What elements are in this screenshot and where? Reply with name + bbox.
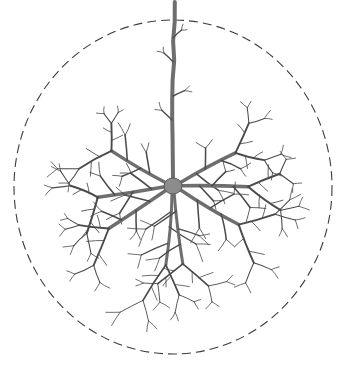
dendrite-up-right-d1 [180, 153, 235, 183]
basal-dendrite-down-inner-left-tw3-d3 [141, 243, 167, 255]
dendrite-down-right-a-tw1-d4 [251, 221, 260, 231]
dendrite-left-a-b-a-d4 [70, 246, 73, 255]
dendrite-down-right-b-a-d3 [254, 263, 272, 270]
dendrite-down-left-tw2-b-d4 [130, 231, 136, 239]
dendrite-right-b-b-b-d4 [279, 229, 282, 236]
basal-dendrite-down-inner-left-tw2-b-d4 [196, 244, 203, 262]
basal-dendrite-down-inner-right-tw2-d3 [179, 229, 200, 236]
dendrite-up-right-b-tw2-d4 [254, 152, 263, 158]
basal-dendrite-down-inner-left-b-tw1-d4 [142, 275, 159, 276]
dendrite-right-a-tw1-d4 [259, 183, 268, 192]
dendrite-down-right-a-b-d3 [275, 214, 295, 220]
dendrite-up-left-a-a-a-d4 [68, 183, 69, 192]
basal-dendrite-down-inner-right-a-tw2-d4 [199, 273, 213, 278]
dendrite-down-left-b-tw1-d4 [97, 215, 100, 227]
dendrite-right-a-b-a-d4 [293, 183, 301, 184]
dendrite-down-left-a-tw2-d4 [99, 254, 107, 266]
dendrite-up-left-tw2-a-d4 [119, 176, 122, 186]
dendrite-down-left-b-d2 [79, 225, 109, 228]
basal-dendrite-down-inner-left-tw3-b-d4 [128, 254, 141, 255]
apical-twig-1-a-d4 [157, 51, 164, 53]
dendrite-down-left-a-b-a-d4 [70, 274, 75, 281]
dendrite-down-left-a-a-a-d4 [100, 283, 110, 289]
dendrite-down-right-b-b-d3 [246, 263, 254, 283]
apical-twig-2-b-d4 [185, 91, 192, 92]
basal-dendrite-down-inner-right-tw3-d3 [160, 244, 181, 258]
dendrite-down-left-b-a-b-d4 [59, 224, 65, 229]
dendrite-right-b-tw2-d4 [271, 200, 283, 203]
dendrite-up-left-tw3-a-d4 [118, 123, 125, 135]
dendrite-left-tw1-b-d4 [127, 164, 132, 174]
dendrite-down-left-b-a-a-d4 [60, 229, 65, 236]
basal-dendrite-down-inner-right-a-a-d3 [208, 282, 226, 286]
dendrite-up-right-tw2-b-d4 [206, 140, 213, 149]
basal-dendrite-down-inner-left-b-tw2-d4 [152, 287, 158, 300]
dendrite-up-right-tw3-a-d4 [241, 163, 251, 169]
basal-dendrite-down-inner-right-b-a-a-d4 [160, 302, 170, 308]
dendrite-up-left-tw3-b-d4 [125, 124, 130, 135]
soma-layer [164, 178, 182, 194]
dendrite-up-left-b-b-b-d4 [118, 110, 123, 113]
dendrite-up-right-tw3-b-d4 [241, 169, 246, 177]
dendrite-down-left-b-b-a-d4 [61, 218, 68, 220]
dendrite-left-tw3-d3 [100, 176, 114, 195]
basal-dendrite-down-inner-left-a-a-d3 [179, 295, 194, 302]
dendritic-arbor-layer [44, 2, 309, 332]
basal-dendrite-down-inner-right-b-a-b-d4 [153, 302, 160, 310]
dendrite-up-right-a-a-d3 [247, 108, 249, 124]
dendrite-down-right-b-b-b-d4 [234, 283, 245, 287]
dendrite-right-a-b-d3 [280, 174, 294, 184]
dendrite-up-right-a-b-a-d4 [264, 111, 270, 119]
dendrite-down-left-a-d2 [94, 229, 109, 266]
dendrite-down-right-b-a-a-d4 [271, 267, 279, 270]
basal-dendrite-down-inner-right-a-d2 [183, 264, 209, 286]
dendrite-up-right-b-d2 [236, 153, 265, 160]
dendrite-up-left-b-b-a-d4 [118, 106, 119, 112]
soma-cell-body [164, 178, 182, 194]
dendrite-left-a-a-b-d4 [87, 254, 91, 262]
dendrite-right-tw3-a-d4 [250, 208, 266, 209]
basal-dendrite-down-inner-right-tw3-b-d4 [146, 258, 160, 260]
dendrite-down-left-b-b-d3 [68, 218, 80, 225]
basal-dendrite-down-inner-right-tw1-a-d4 [152, 226, 155, 240]
dendrite-down-left-b-a-d3 [65, 225, 79, 229]
apical-twig-3-b-d4 [159, 102, 162, 110]
dendrite-right-a-a-d3 [280, 159, 287, 174]
dendrite-up-left-tw1-b-d4 [146, 143, 149, 153]
dendrite-up-left-tw1-a-d4 [141, 144, 146, 152]
dendrite-up-left-tw1-d3 [146, 152, 150, 173]
dendrite-up-left-a-b-a-d4 [47, 169, 57, 177]
dendrite-up-right-a-d2 [236, 123, 249, 153]
dendrite-up-left-b-tw1-d4 [112, 135, 123, 140]
dendrite-left-b-a-d3 [53, 186, 71, 188]
dendrite-down-right-b-a-b-d4 [271, 270, 278, 279]
dendrite-down-right-a-b-b-d4 [295, 220, 298, 229]
dendrite-right-b-d2 [248, 187, 280, 211]
dendrite-up-right-b-a-d3 [264, 154, 280, 160]
dendrite-down-right-b-tw2-d4 [249, 251, 264, 254]
dendrite-up-left-tw2-b-d4 [113, 175, 122, 176]
dendrite-up-left-b-tw2-d4 [103, 128, 111, 132]
dendrite-up-right-a-b-d3 [249, 119, 265, 124]
dendrite-right-a-a-a-d4 [280, 152, 286, 160]
dendrite-up-right-a-tw2-d4 [238, 124, 245, 133]
dendrite-left-b-a-a-d4 [46, 188, 53, 195]
dendrite-left-b-b-b-d4 [59, 164, 61, 171]
dendrite-down-right-a-a-b-d4 [290, 194, 301, 199]
dendrite-right-tw3-b-d4 [246, 208, 250, 223]
apical-twig-2-a-d4 [185, 86, 190, 91]
basal-dendrite-down-inner-right-tw2-a-d4 [199, 234, 209, 236]
basal-dendrite-down-inner-right-tw1-d3 [154, 211, 176, 226]
basal-dendrite-down-inner-left-a-tw2-d4 [175, 285, 190, 287]
basal-dendrite-down-inner-right-b-a-d3 [158, 284, 160, 303]
dendrite-down-left-tw3-d3 [102, 211, 122, 220]
dendrite-right-b-a-a-d4 [299, 197, 303, 206]
dendrite-down-right-a-a-a-d4 [290, 188, 293, 200]
dendrite-down-left-b-tw2-d4 [82, 226, 90, 237]
dendrite-left-a-a-d3 [87, 233, 91, 253]
dendrite-left-b-d2 [71, 186, 98, 198]
dendrite-down-right-tw1-d3 [197, 200, 199, 228]
basal-dendrite-down-inner-left-b-b-a-d4 [112, 312, 121, 325]
dendrite-up-right-a-a-b-d4 [247, 101, 251, 107]
dendrite-left-a-b-d3 [74, 233, 87, 245]
